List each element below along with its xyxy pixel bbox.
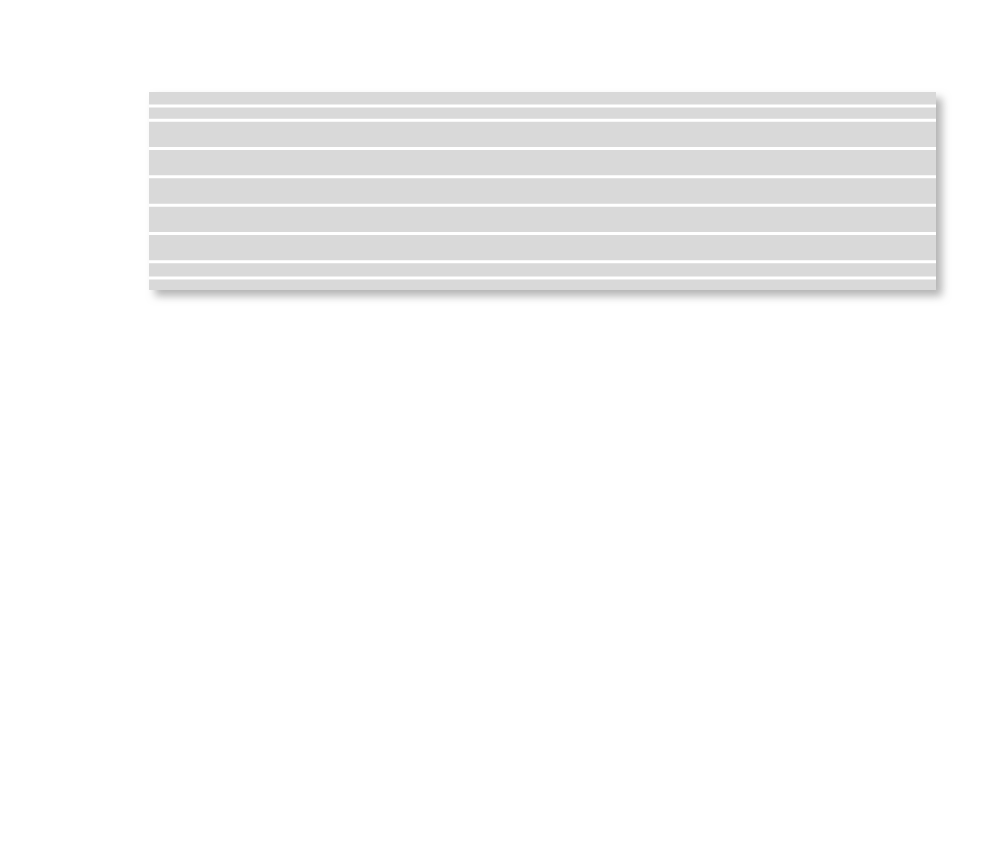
panels-group (149, 92, 936, 290)
panel-1 (149, 92, 936, 290)
multiple-baseline-figure: Percentage of target behaviors Sessions (0, 0, 993, 856)
chart-canvas (0, 0, 993, 856)
